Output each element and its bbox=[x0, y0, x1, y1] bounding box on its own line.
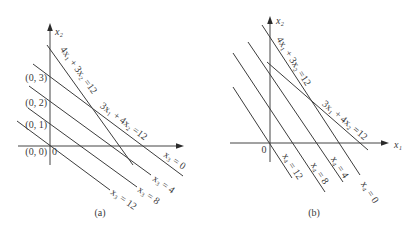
level-label-x4-4: x₄ = 4 bbox=[329, 154, 351, 180]
x2-axis-arrow-icon bbox=[47, 23, 53, 31]
x2-axis-arrow-icon bbox=[267, 16, 273, 24]
x1-axis-label: x₁ bbox=[393, 139, 402, 150]
level-line-x4-0 bbox=[262, 25, 360, 175]
x2-axis-label: x₂ bbox=[54, 26, 63, 37]
panel-a: x₂ 4x₁ + 3x₂ =12 3x₁ + 4x₂ =12 (0, 3) (0… bbox=[17, 23, 188, 219]
constraint-label-3x1-4x2: 3x₁ + 4x₂ =12 bbox=[98, 100, 149, 142]
x1-axis-arrow-icon bbox=[176, 143, 184, 149]
x2-axis-label: x₂ bbox=[275, 15, 284, 26]
level-label-x3-0: x₃ = 0 bbox=[162, 149, 188, 172]
panel-caption-b: (b) bbox=[308, 207, 320, 219]
origin-label: 0 bbox=[262, 144, 267, 155]
panel-caption-a: (a) bbox=[94, 207, 105, 219]
point-label-0-2: (0, 2) bbox=[25, 97, 47, 109]
constraint-line-3x1-4x2 bbox=[267, 62, 368, 150]
level-line-x4-12 bbox=[233, 87, 292, 178]
constraint-label-3x1-4x2: 3x₁ + 4x₂ =12 bbox=[320, 98, 370, 142]
level-line-x4-8 bbox=[233, 53, 325, 192]
constraint-line-4x1-3x2 bbox=[47, 45, 133, 165]
level-label-x3-12: x₃ = 12 bbox=[109, 186, 139, 212]
level-label-x4-0: x₄ = 0 bbox=[359, 179, 381, 205]
constraint-label-4x1-3x2: 4x₁ + 3x₂ =12 bbox=[275, 34, 314, 87]
diagram-canvas: x₂ 4x₁ + 3x₂ =12 3x₁ + 4x₂ =12 (0, 3) (0… bbox=[0, 0, 415, 229]
point-label-0-1: (0, 1) bbox=[25, 119, 47, 131]
origin-label: 0 bbox=[52, 146, 57, 157]
point-label-0-3: (0, 3) bbox=[25, 72, 47, 84]
panel-b: x₂ x₁ 0 4x₁ + 3x₂ =12 3x₁ + 4x₂ =12 x₄ =… bbox=[230, 15, 402, 219]
level-label-x3-8: x₃ = 8 bbox=[136, 184, 162, 207]
figure: x₂ 4x₁ + 3x₂ =12 3x₁ + 4x₂ =12 (0, 3) (0… bbox=[0, 0, 415, 229]
level-line-x3-0 bbox=[33, 64, 183, 176]
point-label-0-0: (0, 0) bbox=[25, 146, 47, 158]
x1-axis-arrow-icon bbox=[381, 140, 389, 146]
